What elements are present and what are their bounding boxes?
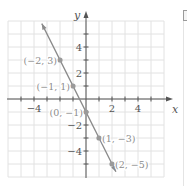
data-point (109, 161, 114, 166)
y-axis-arrow-icon (84, 11, 89, 18)
x-tick-label: −4 (27, 103, 42, 114)
x-tick-label: 2 (109, 103, 115, 114)
axes (7, 11, 173, 178)
point-label: (2, −5) (115, 159, 149, 170)
data-point (57, 57, 62, 62)
y-axis-label: y (73, 9, 81, 22)
data-point (70, 83, 75, 88)
side-panel-tab[interactable] (183, 10, 187, 21)
x-tick-label: 4 (135, 103, 141, 114)
point-label: (−2, 3) (23, 55, 57, 66)
x-axis-arrow-icon (166, 97, 173, 102)
x-axis-label: x (172, 103, 179, 116)
y-tick-label: −4 (67, 146, 82, 157)
data-point (96, 135, 101, 140)
side-panel-edge (183, 10, 187, 186)
point-label: (−1, 1) (36, 81, 70, 92)
data-point (83, 109, 88, 114)
y-tick-label: 2 (76, 68, 82, 79)
line-chart: xy−42442−2−4 (−2, 3)(−1, 1)(0, −1)(1, −3… (0, 0, 187, 186)
line-arrow-start-icon (42, 24, 47, 30)
point-label: (1, −3) (102, 133, 136, 144)
y-tick-label: 4 (76, 42, 82, 53)
y-tick-label: −2 (67, 120, 82, 131)
point-label: (0, −1) (49, 107, 83, 118)
